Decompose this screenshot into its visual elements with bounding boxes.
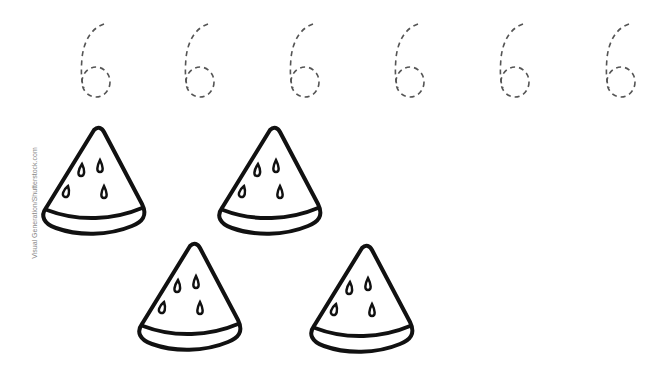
dotted-six-1 [78, 22, 118, 98]
watermelon-icon [38, 124, 150, 242]
watermark: Visual Generation/Shutterstock.com [28, 128, 40, 278]
dotted-six-2 [182, 22, 222, 98]
watermelon-icon [306, 242, 418, 360]
watermark-text: Visual Generation/Shutterstock.com [31, 147, 38, 259]
watermelon-icon [134, 240, 246, 358]
dotted-six-5 [497, 22, 537, 98]
dotted-six-3 [287, 22, 327, 98]
dotted-six-6 [603, 22, 643, 98]
dotted-six-4 [392, 22, 432, 98]
watermelon-icon [214, 124, 326, 242]
